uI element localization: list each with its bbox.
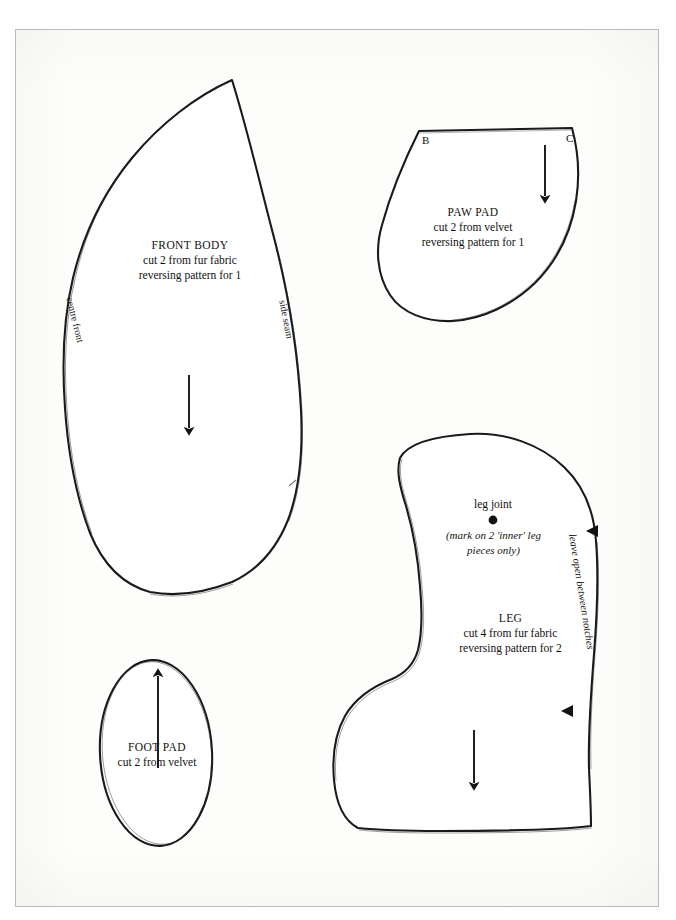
front-body-label-block: FRONT BODY cut 2 from fur fabric reversi… <box>110 238 270 284</box>
leg-line2: cut 4 from fur fabric <box>433 626 588 641</box>
front-body-line3: reversing pattern for 1 <box>110 268 270 283</box>
paw-pad-title: PAW PAD <box>397 205 549 220</box>
leg-joint-note: (mark on 2 'inner' leg pieces only) <box>421 528 566 557</box>
leg-label-block: LEG cut 4 from fur fabric reversing patt… <box>433 611 588 657</box>
paw-pad-corner-c-label: C <box>566 132 573 144</box>
front-body-title: FRONT BODY <box>110 238 270 253</box>
piece-front-body <box>64 80 303 596</box>
leg-joint-note-line2: pieces only) <box>421 543 566 558</box>
foot-pad-line2: cut 2 from velvet <box>96 755 218 770</box>
leg-title: LEG <box>433 611 588 626</box>
paw-pad-line3: reversing pattern for 1 <box>397 235 549 250</box>
foot-pad-title: FOOT PAD <box>96 740 218 755</box>
leg-joint-note-line1: (mark on 2 'inner' leg <box>421 528 566 543</box>
leg-line3: reversing pattern for 2 <box>433 641 588 656</box>
foot-pad-label-block: FOOT PAD cut 2 from velvet <box>96 740 218 770</box>
front-body-line2: cut 2 from fur fabric <box>110 253 270 268</box>
paw-pad-corner-b-label: B <box>422 134 429 146</box>
front-body-outline <box>64 80 302 594</box>
pattern-drawing <box>0 0 676 920</box>
paw-pad-line2: cut 2 from velvet <box>397 220 549 235</box>
leg-joint-label: leg joint <box>443 497 543 512</box>
pattern-sheet: FRONT BODY cut 2 from fur fabric reversi… <box>0 0 676 920</box>
paw-pad-label-block: PAW PAD cut 2 from velvet reversing patt… <box>397 205 549 251</box>
leg-joint-dot <box>489 516 498 525</box>
